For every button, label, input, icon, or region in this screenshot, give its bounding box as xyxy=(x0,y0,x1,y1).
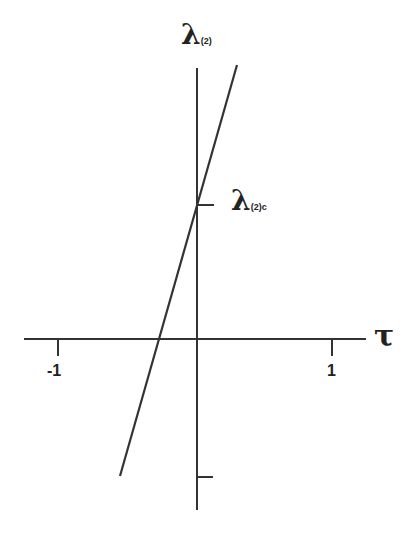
y-axis-subscript: (2) xyxy=(201,36,212,46)
x-axis-label: τ xyxy=(374,318,394,353)
lambda-symbol: λ xyxy=(181,18,201,51)
x-tick-label-pos1: 1 xyxy=(327,362,336,380)
lambda-symbol: λ xyxy=(231,184,251,217)
plot-canvas xyxy=(0,0,413,535)
y-axis-label: λ(2) xyxy=(181,18,212,51)
intercept-label: λ(2)c xyxy=(231,184,267,217)
x-tick-label-neg1: -1 xyxy=(47,362,61,380)
data-line xyxy=(120,65,237,476)
intercept-subscript: (2)c xyxy=(251,202,267,212)
